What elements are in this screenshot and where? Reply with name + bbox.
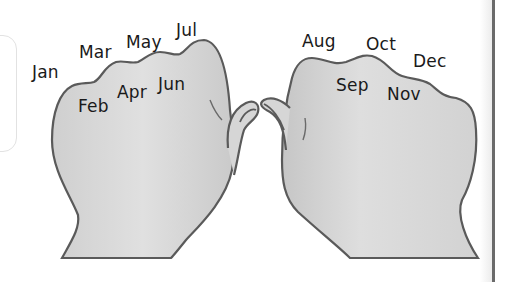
month-label-jan: Jan	[32, 64, 59, 81]
month-label-nov: Nov	[387, 86, 421, 103]
month-label-may: May	[126, 34, 162, 51]
month-label-jun: Jun	[158, 76, 185, 93]
right-thumb	[261, 98, 290, 150]
month-label-oct: Oct	[366, 36, 396, 53]
month-label-dec: Dec	[413, 53, 447, 70]
right-fist	[261, 55, 478, 258]
month-label-apr: Apr	[117, 84, 147, 101]
month-label-jul: Jul	[176, 22, 197, 39]
month-label-feb: Feb	[78, 98, 109, 115]
month-label-aug: Aug	[302, 33, 336, 50]
month-label-sep: Sep	[336, 77, 369, 94]
left-fist	[52, 40, 258, 258]
right-fist-shape	[282, 55, 478, 258]
left-fist-shape	[52, 40, 234, 258]
knuckle-months-diagram: Jan Mar May Jul Feb Apr Jun Aug Oct Dec …	[0, 0, 505, 282]
month-label-mar: Mar	[79, 44, 112, 61]
fists-illustration	[0, 0, 505, 282]
left-thumb	[228, 102, 259, 175]
